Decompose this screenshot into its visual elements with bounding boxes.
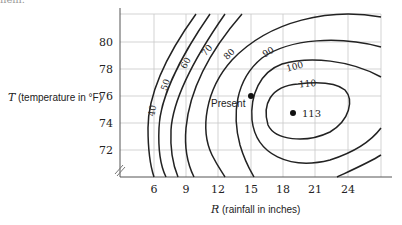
svg-text:9: 9 — [183, 183, 190, 196]
contour-lines — [148, 14, 381, 177]
svg-text:40: 40 — [146, 104, 158, 117]
svg-text:18: 18 — [276, 183, 290, 196]
svg-text:R: R — [210, 203, 219, 216]
svg-text:6: 6 — [151, 183, 158, 196]
svg-text:12: 12 — [211, 183, 225, 196]
contour-chart: 40 50 60 70 80 90 100 110 Present 113 80… — [0, 0, 402, 225]
svg-text:(temperature in °F): (temperature in °F) — [18, 92, 102, 103]
x-tick-labels: 6 9 12 15 18 21 24 — [151, 183, 356, 196]
svg-text:Present: Present — [211, 98, 246, 109]
svg-text:110: 110 — [299, 78, 317, 89]
svg-text:70: 70 — [199, 43, 214, 58]
svg-text:T: T — [8, 91, 17, 104]
svg-text:78: 78 — [99, 63, 113, 76]
y-axis-label: T (temperature in °F) — [8, 91, 102, 104]
svg-text:113: 113 — [302, 108, 321, 119]
svg-text:24: 24 — [341, 183, 355, 196]
svg-text:50: 50 — [159, 77, 172, 91]
svg-text:100: 100 — [285, 59, 304, 73]
svg-text:74: 74 — [99, 117, 113, 130]
svg-text:80: 80 — [99, 36, 113, 49]
svg-text:21: 21 — [308, 183, 322, 196]
svg-text:(rainfall in inches): (rainfall in inches) — [222, 204, 300, 215]
present-point: Present — [211, 93, 254, 109]
svg-text:80: 80 — [222, 46, 237, 61]
svg-text:15: 15 — [244, 183, 258, 196]
maximum-point: 113 — [290, 108, 321, 119]
x-axis-label: R (rainfall in inches) — [210, 203, 300, 216]
svg-text:72: 72 — [99, 144, 113, 157]
